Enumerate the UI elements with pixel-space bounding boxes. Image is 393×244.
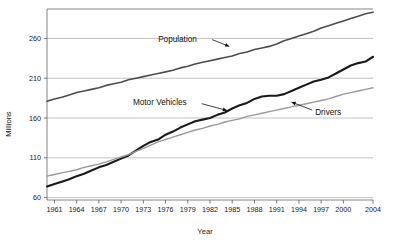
y-tick-label: 60 (33, 193, 41, 202)
line-chart: 60110160210260 1961196419671970197319761… (0, 0, 393, 244)
chart-container: 60110160210260 1961196419671970197319761… (0, 0, 393, 244)
y-tick-label: 110 (30, 153, 41, 162)
x-tick-label: 2000 (335, 205, 351, 214)
y-tick-label: 210 (29, 74, 41, 83)
x-tick-label: 1982 (202, 205, 218, 214)
annotation-label-drivers: Drivers (315, 108, 341, 117)
annotation-label-motor-vehicles: Motor Vehicles (133, 98, 187, 107)
y-tick-label: 260 (29, 34, 41, 43)
x-tick-label: 1961 (46, 205, 62, 214)
x-tick-label: 1967 (91, 205, 107, 214)
y-axis-title: Millions (4, 111, 13, 137)
annotation-label-population: Population (158, 35, 197, 44)
y-tick-label: 160 (29, 114, 41, 123)
x-tick-label: 1985 (224, 205, 240, 214)
x-tick-label: 1997 (313, 205, 329, 214)
x-tick-label: 1979 (180, 205, 196, 214)
x-axis-title: Year (197, 227, 213, 236)
x-tick-label: 1988 (246, 205, 262, 214)
x-tick-label: 1973 (135, 205, 151, 214)
x-tick-label: 1994 (291, 205, 307, 214)
x-tick-label: 1976 (158, 205, 174, 214)
x-tick-label: 2004 (365, 205, 381, 214)
x-tick-label: 1964 (69, 205, 85, 214)
x-tick-label: 1970 (113, 205, 129, 214)
x-tick-label: 1991 (269, 205, 285, 214)
